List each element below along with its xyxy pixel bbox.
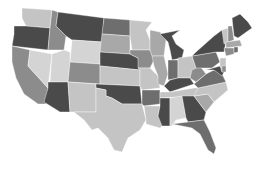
state-wy bbox=[70, 40, 102, 64]
state-ri bbox=[234, 47, 238, 53]
state-in bbox=[168, 60, 178, 80]
state-or bbox=[12, 26, 50, 50]
state-ut bbox=[50, 50, 70, 82]
state-fl bbox=[172, 120, 216, 154]
state-de bbox=[222, 66, 226, 72]
state-mn bbox=[130, 20, 152, 50]
state-sd bbox=[100, 34, 130, 54]
us-states-map bbox=[0, 0, 258, 170]
state-wa bbox=[22, 8, 52, 28]
state-ar bbox=[142, 90, 160, 106]
state-ny bbox=[192, 30, 226, 56]
state-co bbox=[68, 62, 100, 84]
state-nd bbox=[102, 18, 130, 36]
state-az bbox=[44, 82, 70, 112]
state-ct bbox=[224, 48, 234, 56]
state-me bbox=[232, 14, 252, 38]
state-nm bbox=[68, 82, 96, 112]
